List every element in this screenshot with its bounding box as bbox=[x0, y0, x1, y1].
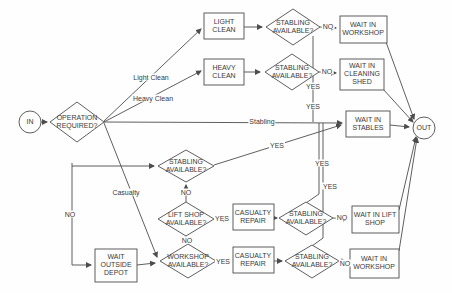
stabling-available-workshop-label: STABLING AVAILABLE? bbox=[289, 253, 335, 269]
edge-label-heavy-clean: Heavy Clean bbox=[132, 95, 174, 102]
casualty-repair-lift-label: CASUALTY REPAIR bbox=[234, 209, 272, 225]
flowchart-canvas: IN OUT OPERATION REQUIRED? LIGHT CLEAN H… bbox=[0, 0, 452, 293]
edge-label-no-operation: NO bbox=[64, 211, 77, 218]
wait-in-lift-shop-label: WAIT IN LIFT SHOP bbox=[353, 211, 397, 227]
light-clean-label: LIGHT CLEAN bbox=[207, 18, 241, 34]
heavy-clean-label: HEAVY CLEAN bbox=[207, 64, 241, 80]
edge-stables-to-out bbox=[390, 125, 409, 127]
edge-stabling bbox=[104, 122, 342, 123]
edge-label-no-stabling-lift: NO bbox=[336, 214, 349, 221]
wait-in-stables-label: WAIT IN STABLES bbox=[349, 116, 387, 132]
stabling-available-mid-label: STABLING AVAILABLE? bbox=[162, 158, 210, 174]
wait-in-workshop-top-label: WAIT IN WORKSHOP bbox=[341, 21, 385, 37]
stabling-available-lift-label: STABLING AVAILABLE? bbox=[283, 210, 329, 226]
edge-label-yes-stabling-heavy: YES bbox=[305, 103, 321, 110]
workshop-available-label: WORKSHOP AVAILABLE? bbox=[164, 253, 212, 269]
edge-depot-to-workshop-decision bbox=[137, 263, 155, 265]
flow-nodes bbox=[19, 9, 435, 282]
edge-label-light-clean: Light Clean bbox=[132, 74, 169, 81]
operation-required-label: OPERATION REQUIRED? bbox=[54, 114, 100, 130]
edge-label-no-stabling-mid: NO bbox=[180, 189, 193, 196]
casualty-repair-workshop-label: CASUALTY REPAIR bbox=[234, 252, 272, 268]
edge-label-yes-stabling-mid: YES bbox=[269, 142, 285, 149]
edge-label-no-stabling-heavy: NO bbox=[321, 68, 334, 75]
edge-label-no-lift-shop: NO bbox=[181, 237, 194, 244]
in-terminator: IN bbox=[20, 118, 40, 126]
wait-in-cleaning-shed-label: WAIT IN CLEANING SHED bbox=[342, 62, 382, 85]
edge-label-stabling: Stabling bbox=[248, 118, 275, 125]
edge-label-yes-stabling-light: YES bbox=[305, 83, 321, 90]
edge-label-yes-stabling-workshop: YES bbox=[322, 183, 338, 190]
lift-shop-available-label: LIFT SHOP AVAILABLE? bbox=[162, 211, 210, 227]
edge-label-yes-stabling-lift: YES bbox=[314, 160, 330, 167]
edge-label-no-stabling-light: NO bbox=[322, 23, 335, 30]
edge-label-casualty: Casualty bbox=[111, 189, 140, 196]
wait-outside-depot-label: WAIT OUTSIDE DEPOT bbox=[97, 253, 135, 276]
edge-label-no-stabling-workshop: NO bbox=[339, 260, 352, 267]
out-terminator: OUT bbox=[413, 124, 435, 132]
edge-label-yes-workshop: YES bbox=[215, 258, 231, 265]
edge-workshop-bottom-to-out bbox=[399, 138, 417, 251]
stabling-available-heavy-label: STABLING AVAILABLE? bbox=[269, 64, 315, 80]
stabling-available-light-label: STABLING AVAILABLE? bbox=[270, 19, 316, 35]
wait-in-workshop-bottom-label: WAIT IN WORKSHOP bbox=[351, 255, 397, 271]
flowchart-drawing bbox=[0, 0, 452, 293]
edge-label-yes-lift-shop: YES bbox=[214, 215, 230, 222]
